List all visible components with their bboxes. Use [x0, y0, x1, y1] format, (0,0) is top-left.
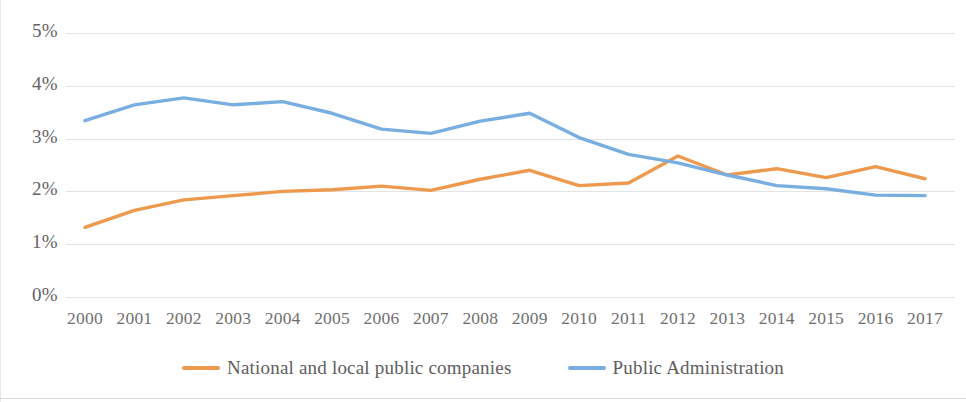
legend-swatch-icon [568, 366, 606, 370]
x-axis-tick-label: 2007 [403, 308, 459, 329]
x-axis-tick-label: 2014 [749, 308, 805, 329]
x-axis-tick-label: 2005 [304, 308, 360, 329]
x-axis-tick-label: 2009 [502, 308, 558, 329]
x-axis-tick-label: 2008 [452, 308, 508, 329]
legend-item[interactable]: Public Administration [568, 357, 785, 379]
series-layer [0, 0, 966, 402]
chart-legend: National and local public companiesPubli… [0, 357, 966, 379]
x-axis-tick-label: 2000 [57, 308, 113, 329]
gridline-y-5pct [66, 33, 955, 34]
gridline-y-0pct [66, 297, 955, 298]
line-series-public-administration [85, 98, 925, 196]
gridline-y-3pct [66, 139, 955, 140]
x-axis-tick-label: 2015 [798, 308, 854, 329]
x-axis-tick-label: 2017 [897, 308, 953, 329]
x-axis-tick-label: 2016 [848, 308, 904, 329]
x-axis-tick-label: 2011 [601, 308, 657, 329]
x-axis-tick-label: 2012 [650, 308, 706, 329]
x-axis-tick-label: 2013 [699, 308, 755, 329]
legend-swatch-icon [182, 366, 220, 370]
gridline-y-2pct [66, 191, 955, 192]
x-axis-tick-label: 2002 [156, 308, 212, 329]
chart-container: 5%4%3%2%1%0% 200020012002200320042005200… [0, 0, 966, 402]
legend-label: National and local public companies [227, 357, 512, 379]
gridline-y-1pct [66, 244, 955, 245]
x-axis-tick-label: 2001 [106, 308, 162, 329]
y-axis-tick-label: 1% [0, 231, 58, 253]
x-axis-tick-label: 2003 [205, 308, 261, 329]
legend-item[interactable]: National and local public companies [182, 357, 512, 379]
x-axis-tick-label: 2004 [255, 308, 311, 329]
x-axis-tick-label: 2010 [551, 308, 607, 329]
y-axis-tick-label: 2% [0, 178, 58, 200]
x-axis-tick-label: 2006 [353, 308, 409, 329]
y-axis-tick-label: 3% [0, 126, 58, 148]
y-axis-tick-label: 5% [0, 20, 58, 42]
plot-area: 5%4%3%2%1%0% 200020012002200320042005200… [0, 0, 966, 402]
y-axis-tick-label: 4% [0, 73, 58, 95]
y-axis-tick-label: 0% [0, 284, 58, 306]
gridline-y-4pct [66, 86, 955, 87]
legend-label: Public Administration [613, 357, 785, 379]
